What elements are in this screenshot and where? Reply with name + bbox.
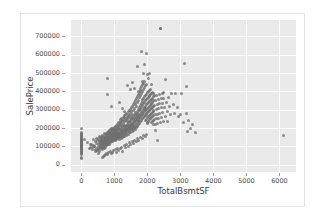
data-point: [186, 130, 189, 133]
y-tick-mark: [62, 146, 65, 147]
data-point: [145, 52, 148, 55]
gridline-vertical: [213, 20, 214, 172]
data-point: [194, 131, 197, 134]
data-point: [148, 72, 151, 75]
x-tick-mark: [114, 173, 115, 176]
data-point: [126, 84, 129, 87]
x-tick-label: 4000: [205, 178, 222, 185]
data-point: [121, 150, 124, 153]
y-tick-label: 500000: [35, 70, 60, 77]
data-point: [141, 80, 144, 83]
gridline-vertical: [246, 20, 247, 172]
data-point: [131, 81, 134, 84]
data-point: [189, 127, 192, 130]
data-point: [164, 78, 167, 81]
gridline-horizontal: [71, 128, 296, 129]
gridline-horizontal: [71, 55, 296, 56]
data-point: [106, 93, 109, 96]
data-point: [165, 101, 168, 104]
x-axis-title: TotalBsmtSF: [71, 186, 296, 196]
data-point: [170, 92, 173, 95]
y-tick-label: 0: [56, 161, 60, 168]
data-point: [183, 62, 186, 65]
x-tick-mark: [180, 173, 181, 176]
y-tick-label: 400000: [35, 88, 60, 95]
data-point: [282, 134, 285, 137]
data-point: [182, 121, 185, 124]
data-point: [180, 92, 183, 95]
data-point: [137, 139, 140, 142]
data-point: [89, 146, 92, 149]
data-point: [162, 120, 165, 123]
y-tick-mark: [62, 165, 65, 166]
data-point: [137, 90, 140, 93]
data-point: [185, 85, 188, 88]
data-point: [150, 83, 153, 86]
data-point: [167, 96, 170, 99]
y-tick-mark: [62, 36, 65, 37]
gridline-horizontal: [71, 91, 296, 92]
data-point: [97, 152, 100, 155]
y-tick-mark: [62, 91, 65, 92]
data-point: [163, 106, 166, 109]
data-point: [173, 112, 176, 115]
y-tick-label: 600000: [35, 51, 60, 58]
x-tick-mark: [279, 173, 280, 176]
x-tick-mark: [246, 173, 247, 176]
data-point: [142, 72, 145, 75]
gridline-horizontal: [71, 110, 296, 111]
plot-area: [71, 20, 296, 172]
x-tick-label: 0: [79, 178, 83, 185]
y-tick-mark: [62, 128, 65, 129]
data-point: [141, 137, 144, 140]
data-point: [174, 92, 177, 95]
x-axis-ticks: 0100020003000400050006000: [71, 172, 296, 186]
x-tick-label: 1000: [106, 178, 123, 185]
data-point: [103, 154, 106, 157]
data-point: [110, 105, 113, 108]
data-point: [143, 63, 146, 66]
data-point: [161, 102, 164, 105]
data-point: [166, 120, 169, 123]
data-point: [159, 27, 162, 30]
data-point: [106, 77, 109, 80]
y-tick-label: 100000: [35, 143, 60, 150]
y-tick-label: 700000: [35, 33, 60, 40]
data-point: [80, 157, 83, 160]
data-point: [154, 129, 157, 132]
data-point: [162, 91, 165, 94]
data-point: [172, 103, 175, 106]
x-tick-mark: [81, 173, 82, 176]
x-tick-mark: [147, 173, 148, 176]
y-tick-mark: [62, 55, 65, 56]
data-point: [187, 119, 190, 122]
data-point: [118, 101, 121, 104]
data-point: [140, 50, 143, 53]
y-tick-mark: [62, 110, 65, 111]
data-point: [160, 116, 163, 119]
data-point: [156, 139, 159, 142]
x-tick-label: 6000: [271, 178, 288, 185]
x-tick-mark: [213, 173, 214, 176]
data-point: [136, 65, 139, 68]
data-point: [191, 123, 194, 126]
data-point: [169, 113, 172, 116]
x-tick-label: 3000: [172, 178, 189, 185]
data-point: [168, 105, 171, 108]
data-point: [80, 127, 83, 130]
y-tick-label: 200000: [35, 125, 60, 132]
gridline-horizontal: [71, 73, 296, 74]
y-tick-mark: [62, 73, 65, 74]
data-point: [179, 113, 182, 116]
data-point: [162, 97, 165, 100]
data-point: [161, 111, 164, 114]
data-point: [147, 77, 150, 80]
y-axis-ticks: 0100000200000300000400000500000600000700…: [21, 20, 67, 172]
chart-card: SalePrice 010000020000030000040000050000…: [20, 13, 305, 207]
data-point: [133, 87, 136, 90]
data-point: [152, 92, 155, 95]
gridline-horizontal: [71, 165, 296, 166]
x-tick-label: 5000: [238, 178, 255, 185]
data-point: [164, 115, 167, 118]
gridline-vertical: [180, 20, 181, 172]
